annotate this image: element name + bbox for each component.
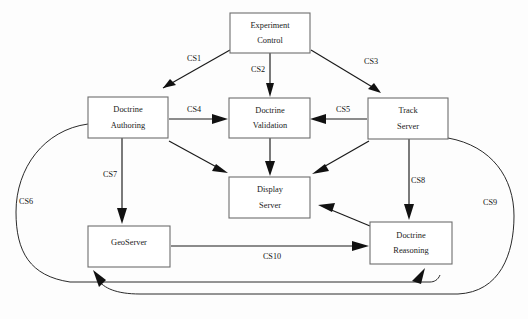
node-doctrine-authoring[interactable]: Doctrine Authoring (88, 97, 168, 138)
edge-cs5-arrowhead (310, 114, 326, 124)
edge-cs4-arrowhead (212, 114, 228, 124)
edge-label-cs2: CS2 (251, 65, 265, 74)
node-doctrine-authoring-label-line2: Authoring (111, 121, 146, 130)
node-doctrine-validation-label-line2: Validation (253, 121, 288, 130)
edge-cs8-arrowhead (404, 204, 414, 220)
node-display-server-box[interactable] (229, 177, 310, 218)
edge-cs8: CS8 (404, 139, 425, 220)
edge-cs3: CS3 (311, 50, 381, 93)
node-doctrine-validation-label-line1: Doctrine (255, 106, 285, 115)
edge-reasoning-to-display-line (329, 209, 370, 226)
edge-label-cs7: CS7 (103, 170, 117, 179)
node-experiment-control-box[interactable] (230, 13, 310, 53)
node-doctrine-reasoning[interactable]: Doctrine Reasoning (370, 222, 452, 264)
edge-label-cs3: CS3 (364, 57, 378, 66)
edge-track-to-display-line (320, 141, 369, 169)
edge-label-cs5: CS5 (336, 105, 350, 114)
node-display-server-label-line2: Server (259, 201, 281, 210)
node-doctrine-reasoning-label-line2: Reasoning (393, 246, 429, 255)
edge-cs9-arrowhead (93, 270, 106, 287)
edge-cs1: CS1 (163, 50, 230, 88)
node-experiment-control-label-line1: Experiment (250, 21, 290, 30)
edge-authoring-to-display (169, 141, 228, 173)
edge-label-cs8: CS8 (411, 176, 425, 185)
edge-track-to-display (312, 141, 369, 174)
edge-reasoning-to-display (318, 203, 370, 226)
block-flow-diagram: CS1 CS2 CS3 CS4 CS5 (0, 0, 528, 319)
node-doctrine-validation[interactable]: Doctrine Validation (229, 98, 310, 138)
edge-label-cs1: CS1 (187, 54, 201, 63)
node-track-server[interactable]: Track Server (368, 98, 448, 139)
node-doctrine-reasoning-label-line1: Doctrine (396, 231, 426, 240)
edge-cs3-arrowhead (368, 83, 381, 93)
node-experiment-control-label-line2: Control (257, 36, 283, 45)
edge-cs7: CS7 (103, 138, 127, 224)
edge-cs4: CS4 (169, 105, 228, 124)
edge-cs5: CS5 (310, 105, 367, 124)
node-track-server-label-line1: Track (398, 106, 418, 115)
edge-validation-to-display-arrowhead (265, 161, 275, 176)
edge-label-cs6: CS6 (19, 197, 33, 206)
edge-cs10-arrowhead (352, 241, 369, 251)
edge-label-cs10: CS10 (263, 252, 281, 261)
node-track-server-label-line2: Server (397, 122, 419, 131)
node-display-server[interactable]: Display Server (229, 177, 310, 218)
edge-cs10: CS10 (171, 241, 369, 261)
edge-cs7-arrowhead (117, 208, 127, 224)
edge-cs2-arrowhead (266, 83, 274, 97)
node-experiment-control[interactable]: Experiment Control (230, 13, 310, 53)
node-geoserver-label-line1: GeoServer (111, 238, 147, 247)
diagram-canvas-root: CS1 CS2 CS3 CS4 CS5 (0, 0, 528, 319)
edge-cs1-arrowhead (163, 79, 176, 88)
node-geoserver[interactable]: GeoServer (88, 226, 170, 267)
node-doctrine-authoring-box[interactable] (88, 97, 168, 138)
edge-validation-to-display (265, 138, 275, 176)
node-doctrine-reasoning-box[interactable] (370, 222, 452, 264)
node-doctrine-validation-box[interactable] (229, 98, 310, 138)
edge-label-cs4: CS4 (187, 105, 201, 114)
node-track-server-box[interactable] (368, 98, 448, 139)
node-doctrine-authoring-label-line1: Doctrine (113, 105, 143, 114)
node-display-server-label-line1: Display (257, 185, 284, 194)
edge-authoring-to-display-line (169, 141, 222, 170)
edge-label-cs9: CS9 (483, 198, 497, 207)
edge-cs2: CS2 (251, 53, 274, 97)
